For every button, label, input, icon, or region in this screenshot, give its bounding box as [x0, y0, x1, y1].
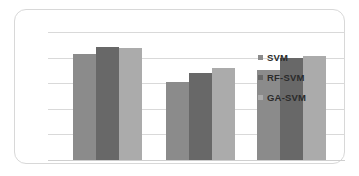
legend-item-label: RF-SVM	[267, 73, 305, 83]
bar	[212, 68, 235, 160]
chart-legend: SVMRF-SVMGA-SVM	[258, 49, 344, 109]
bar	[96, 47, 119, 160]
bar	[119, 48, 142, 160]
bar	[73, 54, 96, 160]
bar	[166, 82, 189, 160]
gridline	[48, 160, 345, 161]
legend-swatch-icon	[258, 75, 263, 80]
legend-item-label: SVM	[267, 53, 288, 63]
legend-swatch-icon	[258, 95, 263, 100]
chart-frame: SVMRF-SVMGA-SVM	[14, 9, 345, 164]
legend-item[interactable]: RF-SVM	[258, 69, 344, 86]
legend-item-label: GA-SVM	[267, 93, 306, 103]
legend-item[interactable]: SVM	[258, 49, 344, 66]
bar-group	[166, 32, 235, 160]
legend-swatch-icon	[258, 55, 263, 60]
bar-group	[73, 32, 142, 160]
legend-item[interactable]: GA-SVM	[258, 89, 344, 106]
bar	[189, 73, 212, 160]
